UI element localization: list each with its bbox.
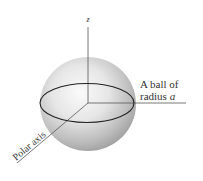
z-axis-label: z: [85, 15, 90, 24]
ball-label-line2: radius a: [140, 90, 176, 102]
ball-label-line1: A ball of: [140, 78, 179, 90]
sphere-diagram: z A ball of radius a Polar axis: [0, 0, 203, 181]
ball-label-radius: radius: [140, 90, 170, 102]
polar-axis-label: Polar axis: [10, 129, 48, 163]
ball-label-var-a: a: [170, 90, 176, 102]
